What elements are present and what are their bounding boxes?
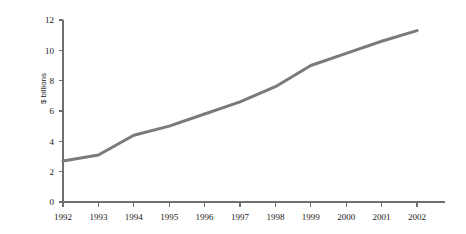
- x-tick-label: 2001: [373, 212, 391, 222]
- x-tick-label: 1997: [231, 212, 250, 222]
- x-tick-label: 2002: [408, 212, 426, 222]
- x-axis-tick-labels: 1992199319941995199619971998199920002001…: [54, 212, 426, 222]
- plot-area: 024681012 199219931994199519961997199819…: [0, 0, 466, 234]
- x-tick-label: 1998: [266, 212, 285, 222]
- x-tick-label: 2000: [337, 212, 356, 222]
- y-tick-label: 6: [50, 106, 55, 116]
- y-tick-label: 10: [45, 46, 55, 56]
- line-chart: $ billions 024681012 1992199319941995199…: [0, 0, 466, 234]
- x-tick-label: 1996: [196, 212, 215, 222]
- y-tick-label: 2: [50, 167, 55, 177]
- series-line: [63, 31, 417, 161]
- x-tick-label: 1994: [125, 212, 144, 222]
- y-tick-label: 4: [50, 137, 55, 147]
- x-tick-label: 1992: [54, 212, 72, 222]
- x-axis-tick-marks: [63, 202, 417, 207]
- y-tick-label: 0: [50, 197, 55, 207]
- y-tick-label: 12: [45, 15, 54, 25]
- y-tick-label: 8: [50, 76, 55, 86]
- x-tick-label: 1995: [160, 212, 179, 222]
- y-axis-tick-labels: 024681012: [45, 15, 55, 207]
- data-series-group: [63, 31, 417, 161]
- x-tick-label: 1993: [89, 212, 108, 222]
- x-tick-label: 1999: [302, 212, 321, 222]
